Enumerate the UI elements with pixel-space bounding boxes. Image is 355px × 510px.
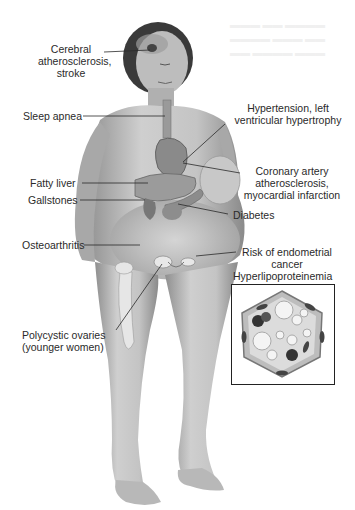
right-leg [165,262,238,488]
right-foot [178,468,224,491]
label-line: Polycystic ovaries [22,329,105,341]
label-diabetes: Diabetes [233,209,274,221]
head [136,31,188,95]
label-osteoarthritis: Osteoarthritis [22,239,84,251]
left-foot [115,480,161,505]
label-endometrial-cancer: Risk of endometrial cancer [230,246,344,270]
label-line: atherosclerosis, [232,177,352,189]
label-cerebral-atherosclerosis: Cerebral atherosclerosis, stroke [38,43,104,79]
heart [155,138,187,177]
label-line: Cerebral [38,43,104,55]
label-line: myocardial infarction [232,189,352,201]
label-fatty-liver: Fatty liver [30,177,76,189]
label-line: Hypertension, left [224,102,352,114]
label-hyperlipoproteinemia: Hyperlipoproteinemia [233,270,332,282]
lipid-vessel-cross-section [232,285,333,383]
label-line: atherosclerosis, [38,55,104,67]
label-line: cancer [230,258,344,270]
label-line: stroke [38,67,104,79]
label-line: (younger women) [22,341,105,353]
label-coronary-artery: Coronary artery atherosclerosis, myocard… [232,165,352,201]
label-sleep-apnea: Sleep apnea [23,110,82,122]
hyperlipoproteinemia-inset [231,284,335,385]
label-hypertension: Hypertension, left ventricular hypertrop… [224,102,352,126]
label-line: ventricular hypertrophy [224,114,352,126]
label-line: Coronary artery [232,165,352,177]
label-line: Risk of endometrial [230,246,344,258]
label-gallstones: Gallstones [28,194,78,206]
label-polycystic-ovaries: Polycystic ovaries (younger women) [22,329,105,353]
